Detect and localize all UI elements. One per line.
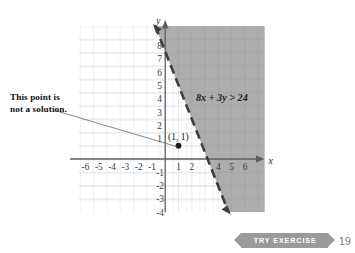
y-tick-4: 4	[157, 94, 162, 104]
page-header-smudge	[0, 0, 355, 9]
x-tick--3: -3	[121, 162, 129, 172]
try-exercise-label: TRY EXERCISE	[254, 236, 317, 245]
y-tick-6: 6	[157, 68, 162, 78]
y-axis-arrow	[162, 20, 169, 29]
x-tick--1: -1	[148, 162, 156, 172]
y-tick-2: 2	[157, 121, 162, 131]
callout-line-1: This point is	[10, 92, 102, 104]
axis-label-y: y	[155, 15, 161, 26]
x-tick--4: -4	[108, 162, 116, 172]
y-tick-1: 1	[157, 134, 162, 144]
x-tick--2: -2	[135, 162, 143, 172]
y-tick--1: -1	[156, 168, 164, 178]
x-tick--5: -5	[95, 162, 103, 172]
x-tick-4: 4	[216, 162, 221, 172]
y-tick--4: -4	[156, 208, 164, 218]
x-tick--6: -6	[82, 162, 90, 172]
x-tick-5: 5	[229, 162, 234, 172]
y-tick-5: 5	[157, 81, 162, 91]
y-tick-3: 3	[157, 108, 162, 118]
y-tick-8: 8	[157, 41, 162, 51]
exercise-number: 19	[339, 235, 351, 247]
x-tick-6: 6	[243, 162, 248, 172]
y-tick--3: -3	[156, 194, 164, 204]
x-tick-1: 1	[176, 162, 181, 172]
x-tick-2: 2	[189, 162, 194, 172]
try-exercise-footer: TRY EXERCISE 19	[241, 233, 351, 248]
callout-line-2: not a solution.	[10, 104, 102, 116]
inequality-graph-svg: -6 -5 -4 -3 -2 -1 1 2 4 5 6 8 7 6 5 4 3 …	[0, 0, 355, 253]
inequality-label: 8x + 3y > 24	[196, 92, 248, 103]
graph-figure: -6 -5 -4 -3 -2 -1 1 2 4 5 6 8 7 6 5 4 3 …	[0, 0, 355, 253]
test-point-label: (1, 1)	[168, 131, 189, 143]
y-tick-7: 7	[157, 54, 162, 64]
y-tick--2: -2	[156, 181, 164, 191]
try-exercise-badge[interactable]: TRY EXERCISE	[241, 233, 328, 248]
test-point-dot	[176, 143, 182, 149]
callout-text: This point is not a solution.	[10, 92, 102, 115]
axis-label-x: x	[268, 155, 274, 166]
